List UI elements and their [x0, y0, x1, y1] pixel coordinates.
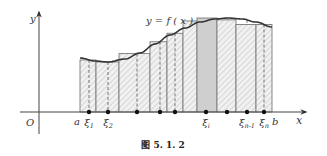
sample-point-dot [245, 110, 249, 114]
riemann-rectangle [217, 20, 236, 112]
curve-label: y = f ( x ) [145, 15, 193, 26]
sample-point-dot [106, 110, 110, 114]
sample-point-dot [158, 110, 162, 114]
sample-point-dot [173, 110, 177, 114]
interval-end-label: b [272, 116, 278, 127]
sample-label: ξn-1 [239, 117, 255, 130]
sample-point-dot [204, 110, 208, 114]
riemann-rectangle [183, 21, 197, 112]
riemann-rectangle [96, 62, 119, 112]
sample-point-dot [262, 110, 266, 114]
sample-label: ξ2 [103, 117, 113, 130]
riemann-rectangle [80, 60, 96, 112]
interval-start-label: a [74, 116, 80, 127]
riemann-rectangle [150, 42, 167, 112]
sample-labels: ξ1ξ2ξiξn-1ξn [84, 117, 269, 130]
sample-point-dot [135, 110, 139, 114]
sample-label: ξ1 [84, 117, 94, 130]
x-axis-label: x [296, 114, 303, 127]
riemann-rectangle [119, 54, 150, 112]
origin-label: O [26, 117, 34, 128]
sample-label: ξi [202, 117, 210, 130]
riemann-rectangle [256, 25, 272, 113]
riemann-sum-figure: y x O a b y = f ( x ) ξ1ξ2ξiξn-1ξn 图 5. … [0, 0, 327, 156]
highlighted-rectangle [197, 18, 217, 112]
sample-label: ξn [259, 117, 269, 130]
y-axis-label: y [29, 13, 36, 24]
sample-point-dot [225, 110, 229, 114]
figure-caption: 图 5. 1. 2 [141, 140, 184, 150]
sample-point-dot [87, 110, 91, 114]
riemann-rectangle [236, 25, 256, 113]
